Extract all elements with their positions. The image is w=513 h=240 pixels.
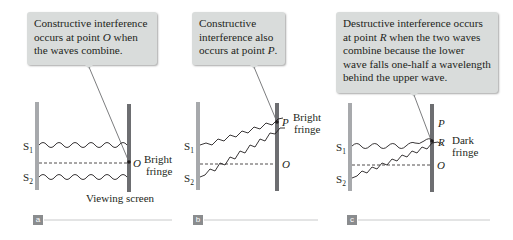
leader-line-a (89, 67, 129, 162)
fringe-label-a-1: Bright (144, 153, 172, 165)
s1-sub-c: 1 (342, 147, 346, 156)
fringe-label-c-1: Dark (452, 134, 474, 146)
slit-barrier-b (196, 102, 200, 190)
source-s1-label-c: S1 (336, 141, 346, 158)
slit-barrier-a (35, 102, 39, 190)
panel-tag-a: a (33, 215, 43, 225)
fringe-label-c-2: fringe (452, 146, 478, 158)
source-s1-label-b: S1 (184, 140, 194, 157)
fringe-label-b-1: Bright (293, 111, 321, 123)
leader-line-b (254, 67, 277, 122)
wave-s1-c (352, 139, 432, 149)
viewing-screen-c (430, 104, 434, 192)
source-s2-label-c: S2 (336, 173, 346, 190)
s2-sub-b: 2 (190, 178, 194, 187)
point-o-marker-a (127, 160, 131, 164)
wave-s2-a (39, 175, 127, 180)
wave-s1-b (200, 118, 283, 145)
viewing-screen-a (127, 104, 131, 192)
slit-barrier-c (348, 103, 352, 191)
point-r-label-c: R (438, 136, 445, 148)
point-o-label-b: O (282, 158, 290, 170)
panel-tag-c: c (347, 215, 357, 225)
leader-line-c (414, 95, 431, 140)
fringe-label-b-2: fringe (294, 123, 320, 135)
point-o-label-a: O (133, 157, 141, 169)
source-s1-label-a: S1 (23, 140, 33, 157)
fringe-label-a-2: fringe (146, 165, 172, 177)
viewing-screen-b (275, 103, 279, 191)
s2-sub-c: 2 (342, 179, 346, 188)
point-p-marker-b (275, 120, 279, 124)
source-s2-label-a: S2 (23, 171, 33, 188)
s1-sub-b: 1 (190, 146, 194, 155)
panel-tag-b: b (193, 215, 203, 225)
source-s2-label-b: S2 (184, 172, 194, 189)
viewing-screen-label: Viewing screen (86, 192, 154, 204)
wave-s2-c (352, 142, 442, 178)
point-p-label-b: P (282, 116, 289, 128)
wave-s2-b (200, 128, 285, 177)
wave-s1-a (39, 143, 127, 148)
point-r-marker-c (430, 139, 434, 143)
s1-sub-a: 1 (29, 146, 33, 155)
interference-diagram (0, 0, 513, 240)
s2-sub-a: 2 (29, 177, 33, 186)
point-o-label-c: O (437, 159, 445, 171)
point-p-label-c: P (438, 117, 445, 129)
